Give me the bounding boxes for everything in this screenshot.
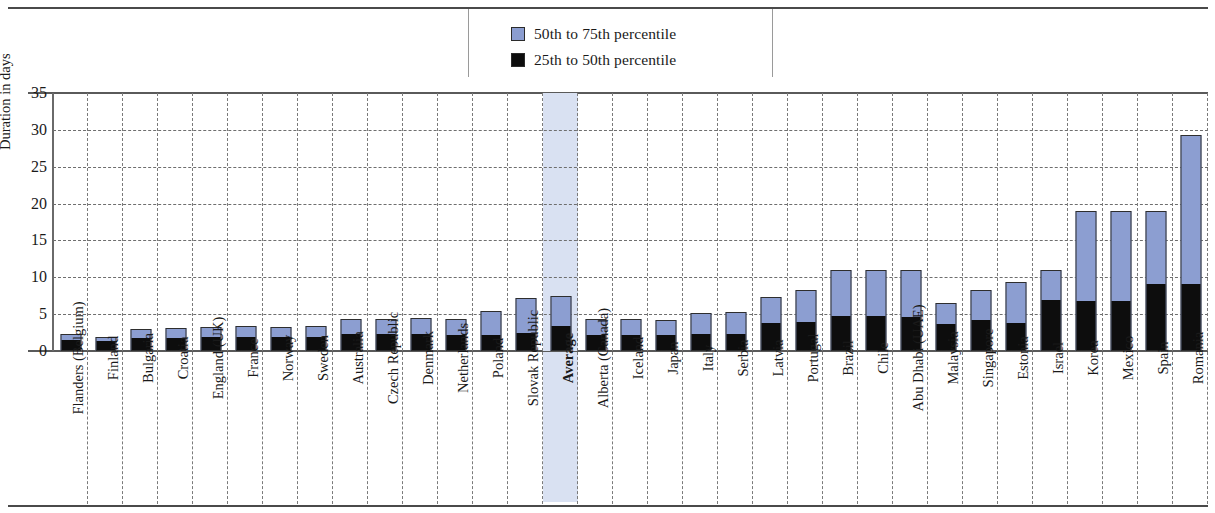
x-tick-label: Italy — [701, 345, 716, 372]
bar-slot — [298, 93, 333, 351]
x-tick-label: France — [246, 338, 261, 377]
x-label-cell: Average — [543, 352, 578, 504]
x-label-cell: Czech Republic — [368, 352, 403, 504]
y-tick-label-10: 10 — [1, 268, 47, 286]
x-tick-label: Flanders (Belgium) — [71, 301, 86, 414]
bar-slot — [228, 93, 263, 351]
x-label-cell: Croatia — [158, 352, 193, 504]
x-tick-label: Average — [561, 333, 576, 383]
x-label-cell: Netherlands — [438, 352, 473, 504]
x-tick-label: Norway — [281, 335, 296, 382]
y-tick-label-15: 15 — [1, 231, 47, 249]
bar-slot — [683, 93, 718, 351]
x-label-cell: Chile — [858, 352, 893, 504]
x-tick-label: Korea — [1086, 340, 1101, 375]
chart-legend: 50th to 75th percentile 25th to 50th per… — [468, 9, 773, 77]
bar-slot — [753, 93, 788, 351]
x-label-cell: Abu Dhabi (UAE) — [893, 352, 928, 504]
category-separator — [1207, 352, 1208, 504]
bar-slot — [823, 93, 858, 351]
legend-label-25-50: 25th to 50th percentile — [534, 51, 676, 69]
x-tick-label: Czech Republic — [386, 312, 401, 404]
x-tick-label: Latvia — [771, 339, 786, 376]
bar-slot — [1068, 93, 1103, 351]
black-square-swatch-icon — [511, 53, 525, 67]
y-tick-label-0: 0 — [1, 342, 47, 360]
x-label-cell: Brazil — [823, 352, 858, 504]
x-label-cell: Slovak Republic — [508, 352, 543, 504]
bar-slot — [928, 93, 963, 351]
bar-slot — [543, 93, 578, 351]
bar-segment-25-50 — [1146, 284, 1165, 350]
x-tick-label: Slovak Republic — [526, 310, 541, 406]
x-label-cell: Korea — [1068, 352, 1103, 504]
x-label-cell: Malaysia — [928, 352, 963, 504]
x-label-cell: Estonia — [998, 352, 1033, 504]
x-label-cell: Iceland — [613, 352, 648, 504]
legend-item-50-75: 50th to 75th percentile — [511, 25, 676, 43]
x-label-cell: Spain — [1138, 352, 1173, 504]
x-label-cell: Italy — [683, 352, 718, 504]
bar-slot — [648, 93, 683, 351]
bar-slot — [473, 93, 508, 351]
x-tick-label: Alberta (Canada) — [596, 308, 611, 408]
x-tick-label: Brazil — [841, 340, 856, 375]
x-tick-label: Serbia — [736, 339, 751, 376]
bar-slot — [718, 93, 753, 351]
x-label-cell: England (UK) — [193, 352, 228, 504]
x-label-cell: Norway — [263, 352, 298, 504]
blue-square-swatch-icon — [511, 27, 525, 41]
legend-item-25-50: 25th to 50th percentile — [511, 51, 676, 69]
x-tick-label: Portugal — [806, 333, 821, 382]
bar-slot — [858, 93, 893, 351]
bar-slot — [88, 93, 123, 351]
x-tick-label: Japan — [666, 341, 681, 374]
stacked-bar — [1075, 211, 1096, 351]
x-tick-label: Malaysia — [946, 331, 961, 384]
y-tick-label-35: 35 — [1, 84, 47, 102]
x-tick-label: Spain — [1156, 341, 1171, 374]
x-label-cell: Flanders (Belgium) — [53, 352, 88, 504]
y-tick-label-30: 30 — [1, 121, 47, 139]
x-label-cell: Australia — [333, 352, 368, 504]
stacked-bar — [1145, 211, 1166, 351]
x-tick-label: Estonia — [1016, 336, 1031, 380]
x-label-cell: Bulgaria — [123, 352, 158, 504]
bar-slot — [438, 93, 473, 351]
category-separator — [1207, 93, 1208, 351]
legend-label-50-75: 50th to 75th percentile — [534, 25, 676, 43]
plot-area: 05101520253035 — [53, 93, 1208, 351]
bar-slot — [158, 93, 193, 351]
stacked-bar — [1040, 270, 1061, 351]
bar-slot — [1033, 93, 1068, 351]
bottom-divider-rule — [8, 505, 1208, 507]
x-tick-label: Sweden — [316, 335, 331, 381]
stacked-bar — [865, 270, 886, 351]
x-tick-label: Iceland — [631, 337, 646, 380]
x-tick-label: Israel — [1051, 342, 1066, 374]
x-axis-labels: Flanders (Belgium)FinlandBulgariaCroatia… — [53, 352, 1208, 504]
bar-slot — [1138, 93, 1173, 351]
bar-slot — [963, 93, 998, 351]
x-tick-label: Mexico — [1121, 336, 1136, 380]
x-label-cell: Serbia — [718, 352, 753, 504]
x-label-cell: Romania — [1173, 352, 1208, 504]
x-tick-label: Bulgaria — [141, 333, 156, 383]
x-tick-label: Abu Dhabi (UAE) — [911, 304, 926, 411]
x-tick-label: Romania — [1191, 332, 1206, 384]
x-tick-label: Australia — [351, 331, 366, 384]
x-label-cell: Sweden — [298, 352, 333, 504]
x-tick-label: Denmark — [421, 331, 436, 385]
x-label-cell: Mexico — [1103, 352, 1138, 504]
y-tick-label-20: 20 — [1, 195, 47, 213]
stacked-bar — [830, 270, 851, 351]
bar-slot — [1103, 93, 1138, 351]
bar-slot — [1173, 93, 1208, 351]
x-label-cell: Japan — [648, 352, 683, 504]
bar-slot — [403, 93, 438, 351]
x-tick-label: Singapore — [981, 329, 996, 388]
bar-slot — [333, 93, 368, 351]
x-label-cell: Denmark — [403, 352, 438, 504]
x-tick-label: England (UK) — [211, 317, 226, 400]
x-label-cell: France — [228, 352, 263, 504]
